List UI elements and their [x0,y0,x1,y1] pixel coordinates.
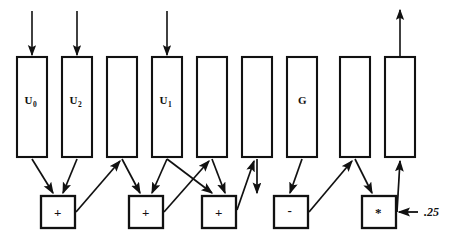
register-r9[interactable] [385,57,415,157]
register-group: U 0 U 2 U 1 G [17,57,415,157]
register-r2[interactable]: U 2 [62,57,92,157]
register-r7[interactable]: G [287,57,317,157]
register-box[interactable] [197,57,227,157]
register-r6[interactable] [242,57,272,157]
edge-op4-r8 [309,161,352,212]
input-arrow-group [32,11,167,55]
register-box[interactable] [385,57,415,157]
operator-group: + + + - * [41,196,396,228]
operator-symbol: + [142,205,149,220]
edge-r1-op1 [32,159,53,193]
operator-op3[interactable]: + [202,196,236,228]
register-r5[interactable] [197,57,227,157]
register-subscript: 0 [33,100,37,109]
register-r3[interactable] [107,57,137,157]
constant-input-group: .25 [399,205,439,219]
register-box[interactable] [242,57,272,157]
edge-r3-op2 [122,159,140,193]
edge-group-up [76,161,400,212]
edge-r5-op3 [212,159,225,193]
register-r8[interactable] [340,57,370,157]
operator-op4[interactable]: - [274,196,308,228]
register-label: G [298,94,307,106]
edge-group-down [32,159,372,193]
register-label: U [160,94,168,106]
edge-op5-r9 [397,161,400,212]
diagram-canvas: U 0 U 2 U 1 G [0,0,464,238]
edge-op1-r3 [76,161,120,212]
register-r4[interactable]: U 1 [152,57,182,157]
register-box[interactable] [152,57,182,157]
edge-r4-op2 [152,159,167,193]
operator-symbol: * [375,205,382,220]
register-subscript: 2 [78,100,82,109]
constant-input-label: .25 [424,205,439,219]
edge-r7-op4 [290,159,302,193]
register-subscript: 1 [168,100,172,109]
edge-op3-r6 [237,161,254,210]
operator-op5[interactable]: * [362,196,396,228]
edge-r2-op1 [63,159,77,193]
operator-op2[interactable]: + [129,196,163,228]
register-label: U [25,94,33,106]
operator-symbol: + [54,205,61,220]
register-box[interactable] [62,57,92,157]
register-box[interactable] [17,57,47,157]
edge-r8-op5 [355,159,372,193]
register-box[interactable] [107,57,137,157]
operator-symbol: - [288,203,292,218]
register-box[interactable] [287,57,317,157]
register-label: U [70,94,78,106]
register-box[interactable] [340,57,370,157]
operator-symbol: + [215,205,222,220]
register-r1[interactable]: U 0 [17,57,47,157]
operator-op1[interactable]: + [41,196,75,228]
